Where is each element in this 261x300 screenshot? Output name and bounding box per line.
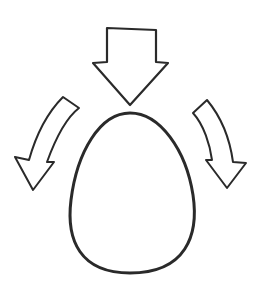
curved-arrow-left-icon xyxy=(15,97,79,190)
diagram-canvas xyxy=(0,0,261,300)
egg-shape xyxy=(70,113,194,273)
down-arrow-icon xyxy=(93,28,168,105)
diagram-svg xyxy=(0,0,261,300)
curved-arrow-right-icon xyxy=(193,100,246,188)
